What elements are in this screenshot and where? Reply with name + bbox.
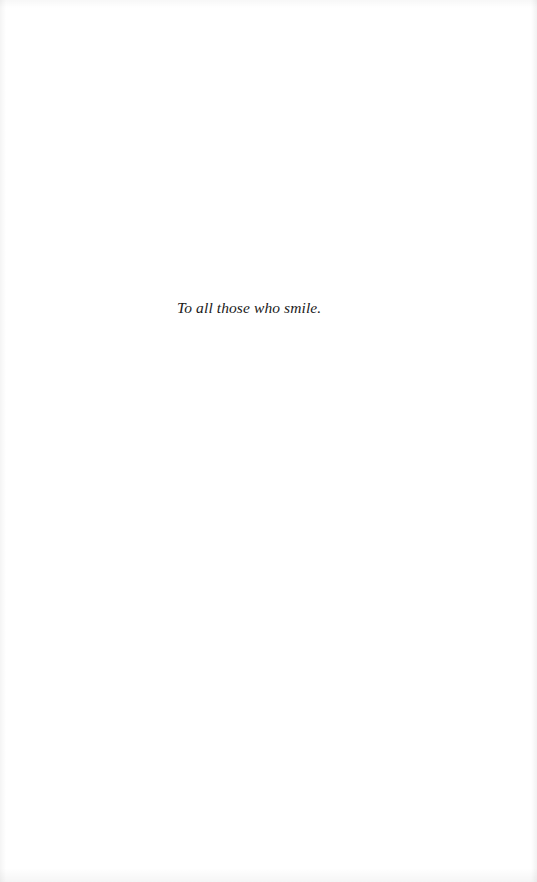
page-edge-shadow-bottom — [0, 868, 537, 882]
page-edge-shadow-right — [531, 0, 537, 882]
book-page: To all those who smile. — [0, 0, 537, 882]
page-edge-shadow-top — [0, 0, 537, 8]
page-edge-shadow-left — [0, 0, 6, 882]
dedication-text: To all those who smile. — [177, 299, 321, 317]
